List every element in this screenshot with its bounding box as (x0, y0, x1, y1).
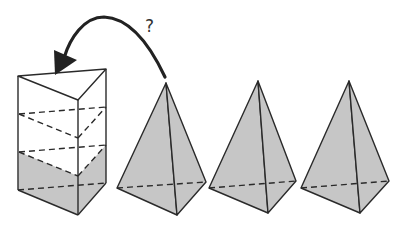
prism-level-1-dashed (19, 107, 106, 138)
diagram-canvas: ? (0, 0, 402, 236)
triangular-prism (18, 69, 106, 215)
prism-fill-front-left (18, 152, 78, 215)
question-mark-label: ? (145, 18, 154, 35)
pyramid-1 (117, 83, 206, 215)
prism-top-face (18, 69, 106, 100)
pyramid-3 (301, 81, 389, 213)
prism-fill-front-right (78, 145, 106, 215)
pyramid-2 (209, 81, 296, 213)
